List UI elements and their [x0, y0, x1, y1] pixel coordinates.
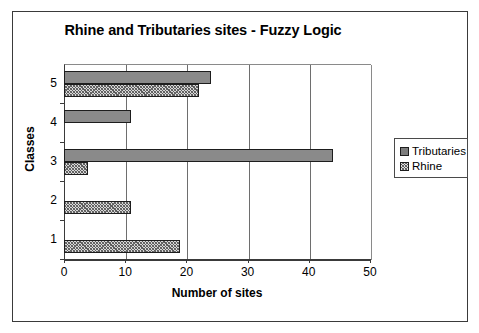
- x-tick-label-0: 0: [44, 265, 84, 279]
- chart-title: Rhine and Tributaries sites - Fuzzy Logi…: [13, 22, 393, 38]
- x-tick-mark-40: [309, 259, 310, 263]
- y-tick-label-5: 5: [31, 76, 57, 90]
- chart-figure: Rhine and Tributaries sites - Fuzzy Logi…: [12, 11, 468, 322]
- x-tick-label-50: 50: [350, 265, 390, 279]
- x-tick-mark-50: [370, 259, 371, 263]
- x-tick-mark-10: [125, 259, 126, 263]
- gridline-x-30: [249, 65, 250, 260]
- legend-swatch-rhine: [400, 162, 409, 171]
- gridline-x-40: [310, 65, 311, 260]
- legend-item-rhine[interactable]: Rhine: [400, 160, 463, 172]
- x-tick-label-20: 20: [166, 265, 206, 279]
- y-tick-mark-5: [60, 103, 64, 104]
- x-tick-label-40: 40: [289, 265, 329, 279]
- bar-rhine-class-1: [64, 240, 180, 253]
- x-tick-label-10: 10: [105, 265, 145, 279]
- y-tick-mark-2: [60, 220, 64, 221]
- legend-swatch-tributaries: [400, 147, 409, 156]
- bar-rhine-class-5: [64, 84, 199, 97]
- x-tick-mark-20: [186, 259, 187, 263]
- y-tick-mark-3: [60, 181, 64, 182]
- x-tick-mark-30: [248, 259, 249, 263]
- bar-rhine-class-3: [64, 162, 88, 175]
- bar-tributaries-class-3: [64, 149, 333, 162]
- legend-item-tributaries[interactable]: Tributaries: [400, 145, 463, 157]
- y-tick-label-1: 1: [31, 232, 57, 246]
- x-tick-label-30: 30: [228, 265, 268, 279]
- x-axis-title: Number of sites: [64, 286, 370, 300]
- y-axis-title: Classes: [23, 101, 37, 197]
- y-tick-mark-4: [60, 142, 64, 143]
- y-tick-mark-1: [60, 259, 64, 260]
- chart-legend: Tributaries Rhine: [394, 138, 468, 178]
- bar-tributaries-class-5: [64, 71, 211, 84]
- bar-rhine-class-2: [64, 201, 131, 214]
- gridline-x-50: [371, 65, 372, 260]
- x-axis-line: [64, 259, 371, 261]
- x-tick-mark-0: [64, 259, 65, 263]
- legend-label-rhine: Rhine: [412, 160, 442, 172]
- bar-tributaries-class-4: [64, 110, 131, 123]
- legend-label-tributaries: Tributaries: [412, 145, 466, 157]
